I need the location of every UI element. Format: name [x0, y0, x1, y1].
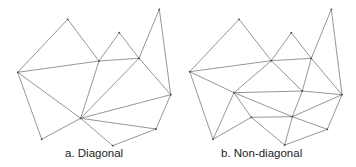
- vertex-E: [138, 57, 140, 59]
- vertex-D: [290, 32, 292, 34]
- edge-A-C: [18, 61, 99, 72]
- edge-A-C: [190, 61, 272, 72]
- edge-T-J: [285, 129, 328, 145]
- non-diagonal-triangulation: [189, 8, 343, 146]
- edge-I-G: [156, 95, 171, 129]
- vertex-G: [341, 94, 343, 96]
- edge-E-F: [139, 9, 159, 58]
- caption-non-diagonal: b. Non-diagonal: [221, 147, 302, 159]
- vertex-D: [118, 32, 120, 34]
- edge-P-Q: [234, 91, 302, 93]
- edge-P-K: [213, 93, 234, 140]
- edge-R-J: [251, 117, 284, 145]
- vertex-I: [155, 128, 157, 130]
- edge-K-H: [42, 118, 81, 139]
- vertex-A: [189, 71, 191, 73]
- diagonal-triangulation: [17, 8, 172, 146]
- edge-A-B: [18, 19, 68, 72]
- edge-E-F: [311, 9, 331, 58]
- vertex-R: [250, 116, 252, 118]
- vertex-A: [17, 71, 19, 73]
- edge-K-R: [213, 117, 251, 139]
- vertex-F: [330, 8, 332, 10]
- edge-E-Q: [302, 58, 311, 91]
- caption-diagonal: a. Diagonal: [65, 147, 123, 159]
- edge-R-S: [251, 117, 292, 118]
- edge-E-G: [139, 58, 171, 94]
- edge-A-K: [18, 72, 42, 139]
- vertex-B: [67, 18, 69, 20]
- edge-G-H: [81, 95, 171, 119]
- edge-S-T: [292, 117, 327, 130]
- edge-C-D: [271, 33, 291, 61]
- edge-A-K: [190, 72, 213, 140]
- vertex-F: [158, 8, 160, 10]
- vertex-P: [233, 92, 235, 94]
- edge-C-E: [99, 58, 139, 61]
- edge-B-C: [68, 19, 99, 61]
- vertex-B: [238, 18, 240, 20]
- edge-J-I: [113, 129, 156, 146]
- edge-A-H: [18, 72, 81, 118]
- edge-A-P: [190, 72, 234, 93]
- vertex-K: [41, 138, 43, 140]
- vertex-C: [98, 60, 100, 62]
- edge-Q-G: [302, 91, 342, 95]
- edge-C-Q: [271, 61, 302, 91]
- edge-C-H: [81, 61, 99, 118]
- edge-C-E: [271, 58, 311, 60]
- edge-F-G: [159, 9, 170, 94]
- edge-S-J: [285, 117, 293, 145]
- vertex-E: [310, 57, 312, 59]
- edge-A-B: [190, 19, 239, 71]
- edge-B-C: [239, 19, 271, 60]
- vertex-J: [284, 144, 286, 146]
- edge-D-E: [119, 33, 139, 59]
- vertex-K: [212, 138, 214, 140]
- edge-D-E: [291, 33, 311, 59]
- edge-C-P: [234, 61, 271, 93]
- edge-E-G: [311, 58, 342, 94]
- vertex-H: [80, 117, 82, 119]
- vertex-S: [291, 116, 293, 118]
- vertex-C: [270, 60, 272, 62]
- triangulation-diagrams: [0, 0, 356, 167]
- vertex-G: [170, 94, 172, 96]
- vertex-T: [326, 128, 328, 130]
- edge-F-G: [331, 9, 342, 94]
- edge-E-H: [81, 58, 139, 118]
- edge-C-D: [99, 33, 119, 61]
- vertex-Q: [301, 90, 303, 92]
